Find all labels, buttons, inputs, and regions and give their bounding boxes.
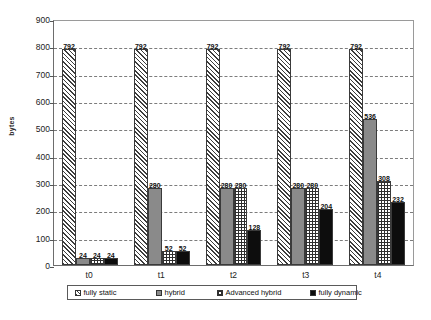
legend-swatch-icon [217,290,223,296]
x-tick-label-t3: t3 [270,268,342,282]
y-tick-label: 800 [20,43,50,52]
bar[interactable]: 204 [319,209,333,265]
bar-value-label: 792 [350,43,362,50]
legend-label: hybrid [165,289,185,297]
y-tick-label: 0 [20,262,50,271]
legend-swatch-icon [310,290,316,296]
legend-swatch-icon [156,290,162,296]
bars: 7922805252 [126,21,198,265]
legend-label: fully dynamic [319,289,362,297]
bar-group-t0: 792242424 [54,21,126,265]
bar[interactable]: 792 [134,49,148,265]
y-tick-label: 200 [20,207,50,216]
y-axis-tick-labels: 0100200300400500600700800900 [16,0,50,320]
bar-group-t3: 792280280204 [269,21,341,265]
bar-value-label: 280 [235,182,247,189]
bar[interactable]: 24 [104,258,118,265]
bar-value-label: 204 [320,203,332,210]
bar-value-label: 232 [392,196,404,203]
y-tick-label: 400 [20,153,50,162]
bar-value-label: 280 [149,182,161,189]
bar[interactable]: 308 [377,181,391,265]
bar-group-t2: 792280280128 [198,21,270,265]
bar[interactable]: 792 [206,49,220,265]
bar[interactable]: 792 [349,49,363,265]
bars: 792280280128 [198,21,270,265]
bar[interactable]: 232 [391,202,405,265]
bar[interactable]: 24 [76,258,90,265]
bar-value-label: 24 [107,252,115,259]
y-tick-label: 700 [20,71,50,80]
y-axis-title: bytes [8,96,15,156]
bar-groups: 7922424247922805252792280280128792280280… [54,21,413,265]
x-tick-label-t2: t2 [197,268,269,282]
bar[interactable]: 792 [277,49,291,265]
bars: 792242424 [54,21,126,265]
bar-value-label: 792 [63,43,75,50]
bar-group-t4: 792536308232 [341,21,413,265]
bar[interactable]: 128 [247,230,261,265]
legend-item-hybrid[interactable]: hybrid [153,289,214,297]
bar-value-label: 280 [292,182,304,189]
bar[interactable]: 280 [234,188,248,265]
y-tick-label: 600 [20,98,50,107]
legend-item-fully-static[interactable]: fully static [72,289,153,297]
bar[interactable]: 52 [176,251,190,265]
y-tick-label: 900 [20,16,50,25]
bar[interactable]: 52 [162,251,176,265]
bar-value-label: 52 [165,245,173,252]
bar-group-t1: 7922805252 [126,21,198,265]
bar-value-label: 280 [306,182,318,189]
bar-value-label: 792 [135,43,147,50]
bar[interactable]: 280 [220,188,234,265]
legend-item-fully-dynamic[interactable]: fully dynamic [307,289,362,297]
bar-value-label: 24 [79,252,87,259]
y-tick-label: 300 [20,180,50,189]
bar-value-label: 52 [179,245,187,252]
bars: 792280280204 [269,21,341,265]
x-tick-label-t4: t4 [342,268,414,282]
bar[interactable]: 280 [148,188,162,265]
bar-value-label: 280 [221,182,233,189]
bar[interactable]: 280 [305,188,319,265]
bar-value-label: 308 [378,175,390,182]
legend-label: fully static [84,289,117,297]
bar[interactable]: 792 [62,49,76,265]
plot-area: 7922424247922805252792280280128792280280… [53,20,414,266]
bar-chart-figure: bytes 0100200300400500600700800900 79224… [0,0,431,320]
bar-value-label: 792 [279,43,291,50]
legend-swatch-icon [75,290,81,296]
bar-value-label: 24 [93,252,101,259]
bar-value-label: 792 [207,43,219,50]
bar-value-label: 536 [364,113,376,120]
legend-item-advanced-hybrid[interactable]: Advanced hybrid [214,289,307,297]
x-tick-label-t0: t0 [53,268,125,282]
bar[interactable]: 280 [291,188,305,265]
bars: 792536308232 [341,21,413,265]
bar[interactable]: 536 [363,119,377,266]
legend-label: Advanced hybrid [226,289,282,297]
x-tick-label-t1: t1 [125,268,197,282]
y-tick-label: 100 [20,235,50,244]
y-tick-label: 500 [20,125,50,134]
chart-legend: fully statichybridAdvanced hybridfully d… [67,285,357,300]
x-axis-tick-labels: t0t1t2t3t4 [53,268,414,282]
bar[interactable]: 24 [90,258,104,265]
bar-value-label: 128 [249,224,261,231]
